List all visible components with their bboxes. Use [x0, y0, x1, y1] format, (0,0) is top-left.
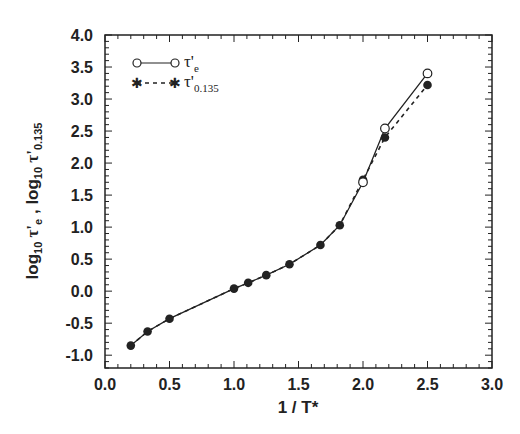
x-axis-title: 1 / T* [278, 398, 319, 417]
filled-marker-icon [230, 284, 239, 293]
series-line-0 [131, 73, 428, 345]
open-circle-marker-icon [359, 178, 368, 187]
y-tick-label: 1.5 [71, 187, 93, 204]
plot-frame [105, 35, 492, 368]
chart: 0.00.51.01.52.02.53.0 -1.0-0.50.00.51.01… [0, 0, 520, 434]
x-tick-label: 2.0 [352, 376, 374, 393]
filled-marker-icon [285, 260, 294, 269]
x-tick-label: 0.0 [94, 376, 116, 393]
x-tick-label: 3.0 [481, 376, 503, 393]
open-circle-marker-icon [423, 69, 432, 78]
y-tick-label: 0.0 [71, 283, 93, 300]
filled-marker-icon [127, 341, 136, 350]
plot-border [105, 35, 492, 368]
legend-label-tau-0135: τ'0.135 [184, 72, 219, 94]
legend: τ'e ✱ ✱ τ'0.135 [131, 52, 219, 94]
open-circle-marker-icon [381, 124, 390, 133]
legend-star-icon: ✱ [169, 75, 181, 91]
filled-marker-icon [423, 81, 432, 90]
y-tick-label: 4.0 [71, 27, 93, 44]
filled-marker-icon [165, 314, 174, 323]
y-tick-label: 3.0 [71, 91, 93, 108]
filled-marker-icon [381, 133, 390, 142]
x-tick-label: 1.5 [287, 376, 309, 393]
filled-marker-icon [143, 327, 152, 336]
filled-marker-icon [316, 241, 325, 250]
legend-label-tau-e: τ'e [184, 52, 199, 74]
legend-star-icon: ✱ [131, 75, 143, 91]
y-tick-label: 1.0 [71, 219, 93, 236]
y-tick-label: -1.0 [65, 347, 93, 364]
y-axis-title: log10 τ'e , log10 τ'0.135 [23, 123, 44, 280]
x-tick-label: 0.5 [158, 376, 180, 393]
legend-open-circle-icon [171, 59, 179, 67]
data-series [127, 69, 432, 350]
y-tick-label: 2.5 [71, 123, 93, 140]
axis-ticks [105, 35, 492, 368]
x-tick-label: 2.5 [416, 376, 438, 393]
y-tick-label: -0.5 [65, 315, 93, 332]
y-tick-labels: -1.0-0.50.00.51.01.52.02.53.03.54.0 [65, 27, 93, 364]
legend-open-circle-icon [133, 59, 141, 67]
filled-marker-icon [244, 279, 253, 288]
filled-marker-icon [335, 221, 344, 230]
y-tick-label: 0.5 [71, 251, 93, 268]
y-tick-label: 3.5 [71, 59, 93, 76]
x-tick-labels: 0.00.51.01.52.02.53.0 [94, 376, 503, 393]
filled-marker-icon [262, 271, 271, 280]
y-tick-label: 2.0 [71, 155, 93, 172]
x-tick-label: 1.0 [223, 376, 245, 393]
